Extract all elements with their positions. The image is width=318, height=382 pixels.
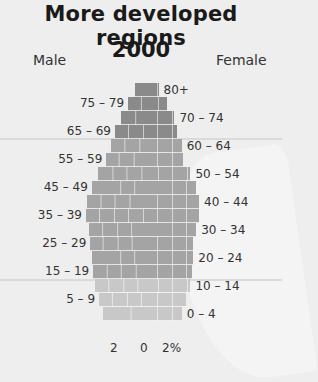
age-group-label: 20 – 24 <box>198 251 242 265</box>
male-bar <box>92 181 144 195</box>
x-tick-right: 2% <box>162 341 181 355</box>
age-group-label: 70 – 74 <box>179 111 223 125</box>
female-bar <box>144 181 196 195</box>
age-group-label: 5 – 9 <box>66 292 95 306</box>
male-bar <box>99 293 144 307</box>
age-group-label: 0 – 4 <box>187 307 216 321</box>
x-tick-center: 0 <box>140 341 148 355</box>
x-tick-left: 2 <box>110 341 118 355</box>
age-group-label: 25 – 29 <box>42 236 86 250</box>
female-bar <box>144 265 192 279</box>
female-bar <box>144 195 199 209</box>
age-group-label: 50 – 54 <box>195 167 239 181</box>
male-bar <box>98 167 144 181</box>
age-group-label: 30 – 34 <box>201 223 245 237</box>
female-bar <box>144 279 190 293</box>
male-bar <box>115 125 144 139</box>
age-group-label: 65 – 69 <box>67 124 111 138</box>
female-bar <box>144 97 167 111</box>
male-bar <box>86 209 144 223</box>
age-group-label: 60 – 64 <box>187 139 231 153</box>
female-bar <box>144 111 174 125</box>
male-bar <box>87 195 144 209</box>
female-bar <box>144 237 193 251</box>
age-group-label: 10 – 14 <box>195 279 239 293</box>
female-bar <box>144 153 183 167</box>
male-bar <box>89 223 144 237</box>
age-group-label: 45 – 49 <box>44 180 88 194</box>
age-group-label: 55 – 59 <box>58 152 102 166</box>
male-bar <box>92 251 144 265</box>
female-bar <box>144 251 193 265</box>
female-bar <box>144 167 190 181</box>
female-bar <box>144 139 182 153</box>
male-bar <box>95 279 144 293</box>
male-bar <box>93 265 144 279</box>
male-bar <box>128 97 144 111</box>
male-bar <box>121 111 144 125</box>
female-bar <box>144 83 159 97</box>
female-bar <box>144 209 199 223</box>
female-bar <box>144 307 182 321</box>
age-group-label: 40 – 44 <box>204 195 248 209</box>
male-bar <box>103 307 144 321</box>
male-bar <box>106 153 144 167</box>
female-bar <box>144 125 177 139</box>
male-bar <box>135 83 144 97</box>
female-bar <box>144 223 196 237</box>
male-bar <box>90 237 144 251</box>
age-group-label: 15 – 19 <box>45 264 89 278</box>
male-bar <box>111 139 144 153</box>
female-bar <box>144 293 186 307</box>
age-group-label: 80+ <box>164 83 189 97</box>
age-group-label: 75 – 79 <box>80 96 124 110</box>
age-group-label: 35 – 39 <box>38 208 82 222</box>
